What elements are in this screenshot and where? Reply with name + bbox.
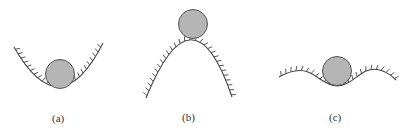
hatch-tick	[95, 48, 98, 52]
panel-c: (c)	[279, 57, 399, 125]
hatch-tick	[145, 88, 149, 91]
hatch-tick	[38, 75, 42, 77]
hatch-tick	[163, 55, 166, 59]
hatch-tick	[381, 67, 384, 71]
hatch-tick	[306, 68, 309, 72]
ball	[323, 57, 352, 86]
hatch-tick	[152, 73, 155, 76]
hatch-tick	[15, 48, 20, 49]
hatch-tick	[166, 50, 169, 54]
hatch-tick	[219, 65, 224, 66]
hatch-tick	[394, 76, 398, 78]
hatch-tick	[376, 65, 378, 69]
hatch-tick	[42, 78, 46, 81]
hatch-tick	[311, 70, 315, 73]
hatch-tick	[281, 71, 282, 76]
hatch-tick	[157, 64, 160, 68]
hatch-tick	[356, 72, 357, 77]
panel-label-a: (a)	[52, 112, 65, 125]
hatch-tick	[371, 65, 372, 70]
hatch-tick	[296, 66, 297, 71]
hatch-tick	[208, 47, 212, 49]
hatch-tick	[84, 65, 87, 69]
hatch-tick	[155, 69, 158, 73]
hatch-tick	[301, 66, 303, 70]
hatch-tick	[204, 43, 208, 45]
hatch-tick	[27, 65, 32, 67]
hatch-tick	[78, 72, 80, 76]
ball	[46, 60, 75, 89]
hatch-marks	[143, 35, 236, 95]
hill-surface	[146, 40, 232, 98]
hatch-tick	[390, 72, 394, 75]
hatch-tick	[352, 75, 353, 80]
hatch-tick	[34, 72, 38, 74]
hatch-tick	[170, 46, 172, 50]
hatch-tick	[217, 60, 222, 61]
panel-label-c: (c)	[329, 111, 342, 124]
hatch-tick	[87, 61, 90, 65]
hatch-tick	[320, 76, 324, 79]
hatch-tick	[200, 39, 204, 42]
hatch-tick	[93, 53, 96, 57]
hatch-tick	[21, 57, 26, 58]
hatch-tick	[24, 61, 29, 62]
hatch-tick	[81, 69, 83, 73]
hatch-tick	[214, 56, 219, 57]
panel-b: (b)	[143, 10, 236, 125]
hatch-tick	[18, 53, 23, 54]
panel-a: (a)	[14, 43, 103, 125]
hatch-tick	[174, 42, 176, 46]
hatch-tick	[211, 51, 216, 52]
hatch-tick	[148, 83, 151, 86]
ball	[179, 10, 208, 39]
hatch-tick	[30, 69, 34, 71]
hatch-tick	[97, 44, 100, 48]
equilibrium-diagram: (a) (b) (c)	[0, 0, 411, 135]
panel-label-b: (b)	[182, 111, 195, 124]
hatch-tick	[386, 69, 390, 72]
hatch-tick	[160, 59, 163, 63]
hatch-tick	[315, 73, 319, 76]
hatch-tick	[143, 92, 147, 95]
hatch-tick	[221, 70, 226, 71]
hatch-tick	[360, 69, 361, 74]
hatch-tick	[150, 78, 153, 81]
hatch-tick	[179, 39, 180, 44]
hatch-tick	[90, 57, 93, 61]
